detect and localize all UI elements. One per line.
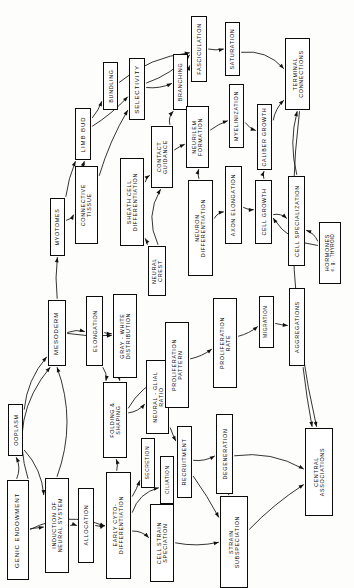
node-label-aggregations: AGGREGATIONS <box>294 301 300 353</box>
node-label-recruitment: RECRUITMENT <box>181 439 187 486</box>
node-migration[interactable]: MIGRATION <box>259 296 274 348</box>
node-branching[interactable]: BRANCHING <box>173 54 188 110</box>
node-label-induction: INDUCTION OF NEURAL SYSTEM <box>51 498 63 552</box>
node-ciliation[interactable]: CILIATION <box>160 456 174 504</box>
node-neuron_diff[interactable]: NEURON DIFFERENTIATION <box>188 180 213 276</box>
node-folding_shaping[interactable]: FOLDING & SHAPING <box>103 382 127 458</box>
node-degeneration[interactable]: DEGENERATION <box>216 414 233 494</box>
node-label-cell_strain_spec: CELL STRAIN SPECIATION <box>156 522 168 564</box>
node-gray_white[interactable]: GRAY - WHITE DISTRIBUTION <box>113 294 137 378</box>
node-cell_strain_spec[interactable]: CELL STRAIN SPECIATION <box>150 504 174 582</box>
node-hormones[interactable]: HORMONES e. g. THYROID <box>319 222 341 284</box>
developmental-interaction-diagram: OOPLASMGENIC ENDOWMENTINDUCTION OF NEURA… <box>0 0 354 588</box>
node-label-selectivity: SELECTIVITY <box>134 65 141 114</box>
node-connective_tissue[interactable]: CONNECTIVE TISSUE <box>75 166 98 244</box>
node-mesoderm[interactable]: MESODERM <box>48 300 66 366</box>
node-elongation[interactable]: ELONGATION <box>86 296 103 366</box>
node-label-neurilem: NEURILEM FORMATION <box>191 118 203 156</box>
node-label-proliferation_pat: PROLIFERATION PATTERN <box>171 339 183 391</box>
node-sublabel-hormones: e. g. THYROID <box>330 234 335 272</box>
node-label-secretion: SECRETION <box>145 446 150 479</box>
node-bundling[interactable]: BUNDLING <box>103 62 118 110</box>
node-label-neural_crest: NEURAL CREST <box>151 258 163 284</box>
node-myotomes[interactable]: MYOTOMES <box>50 198 65 256</box>
node-cell_growth[interactable]: CELL GROWTH <box>255 180 272 244</box>
node-label-myotomes: MYOTOMES <box>54 209 60 246</box>
node-label-saturation: SATURATION <box>229 29 235 70</box>
node-genic_endowment[interactable]: GENIC ENDOWMENT <box>7 480 29 580</box>
node-label-contact_guidance: CONTACT GUIDANCE <box>156 140 168 174</box>
node-label-allocation: ALLOCATION <box>83 505 89 546</box>
node-label-ooplasm: OOPLASM <box>12 414 18 446</box>
node-proliferation_rate[interactable]: PROLIFERATION RATE <box>213 298 237 388</box>
node-label-connective_tissue: CONNECTIVE TISSUE <box>80 184 92 226</box>
node-limb_bud[interactable]: LIMB BUD <box>75 108 91 160</box>
node-label-early_cyto: EARLY CYTO- DIFFERENTIATION <box>112 496 124 554</box>
node-label-sheath_cell: SHEATH CELL DIFFERENTIATION <box>126 173 138 231</box>
node-central_assoc[interactable]: CENTRAL ASSOCIATIONS <box>305 428 333 516</box>
node-proliferation_pat[interactable]: PROLIFERATION PATTERN <box>165 322 189 408</box>
node-label-elongation: ELONGATION <box>91 310 97 352</box>
node-label-terminal_conn: TERMINAL CONNECTIONS <box>291 50 303 98</box>
node-contact_guidance[interactable]: CONTACT GUIDANCE <box>151 126 173 188</box>
node-label-gray_white: GRAY - WHITE DISTRIBUTION <box>119 313 131 359</box>
node-neurilem[interactable]: NEURILEM FORMATION <box>186 106 209 168</box>
node-label-axon_elongation: AXON ELONGATION <box>230 174 236 236</box>
node-label-bundling: BUNDLING <box>107 69 113 102</box>
node-label-neural_glial: NEURAL - GLIAL RATIO <box>151 371 163 423</box>
node-terminal_conn[interactable]: TERMINAL CONNECTIONS <box>285 38 310 110</box>
node-allocation[interactable]: ALLOCATION <box>78 488 94 563</box>
node-fasciculation[interactable]: FASCICULATION <box>191 16 207 82</box>
node-label-ciliation: CILIATION <box>164 466 169 495</box>
node-aggregations[interactable]: AGGREGATIONS <box>289 288 305 366</box>
node-label-caliber_growth: CALIBER GROWTH <box>261 108 267 167</box>
node-label-central_assoc: CENTRAL ASSOCIATIONS <box>313 448 325 496</box>
node-label-cell_specialization: CELL SPECIALIZATION <box>293 185 299 257</box>
node-secretion[interactable]: SECRETION <box>141 438 155 488</box>
node-label-migration: MIGRATION <box>264 306 269 338</box>
node-label-neuron_diff: NEURON DIFFERENTIATION <box>194 199 206 257</box>
node-strain_subspec[interactable]: STRAIN SUBSPECIATION <box>220 496 248 588</box>
node-axon_elongation[interactable]: AXON ELONGATION <box>225 166 242 244</box>
node-selectivity[interactable]: SELECTIVITY <box>129 58 145 120</box>
node-myelinization[interactable]: MYELINIZATION <box>229 84 244 148</box>
node-label-mesoderm: MESODERM <box>54 311 61 354</box>
node-label-strain_subspec: STRAIN SUBSPECIATION <box>228 516 240 568</box>
node-neural_crest[interactable]: NEURAL CREST <box>148 246 166 296</box>
node-label-genic_endowment: GENIC ENDOWMENT <box>15 492 22 567</box>
node-caliber_growth[interactable]: CALIBER GROWTH <box>257 104 272 170</box>
node-induction[interactable]: INDUCTION OF NEURAL SYSTEM <box>45 478 69 573</box>
node-cell_specialization[interactable]: CELL SPECIALIZATION <box>288 176 305 266</box>
node-label-proliferation_rate: PROLIFERATION RATE <box>219 317 231 369</box>
node-ooplasm[interactable]: OOPLASM <box>8 404 23 456</box>
node-label-branching: BRANCHING <box>177 63 183 102</box>
node-sheath_cell[interactable]: SHEATH CELL DIFFERENTIATION <box>120 158 144 246</box>
node-label-folding_shaping: FOLDING & SHAPING <box>109 402 121 437</box>
node-label-fasciculation: FASCICULATION <box>196 23 202 75</box>
node-label-myelinization: MYELINIZATION <box>233 91 239 141</box>
node-label-degeneration: DEGENERATION <box>221 428 227 479</box>
node-layer: OOPLASMGENIC ENDOWMENTINDUCTION OF NEURA… <box>0 0 354 588</box>
node-early_cyto[interactable]: EARLY CYTO- DIFFERENTIATION <box>106 472 131 579</box>
node-recruitment[interactable]: RECRUITMENT <box>177 426 192 498</box>
node-label-limb_bud: LIMB BUD <box>80 116 87 152</box>
node-saturation[interactable]: SATURATION <box>225 22 240 76</box>
node-label-hormones: HORMONES e. g. THYROID <box>324 234 335 272</box>
node-label-cell_growth: CELL GROWTH <box>260 188 266 235</box>
